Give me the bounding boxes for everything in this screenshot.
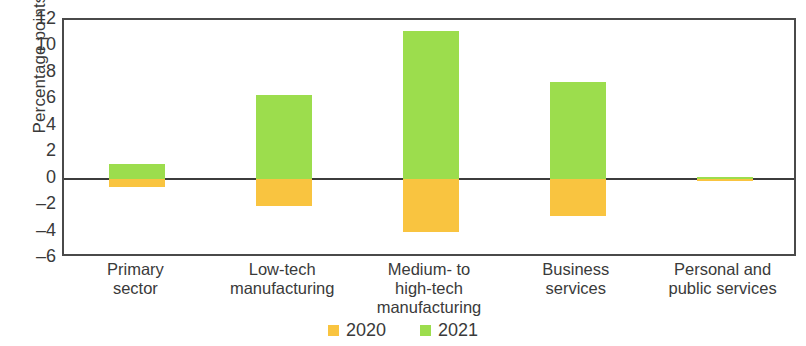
x-axis-label-line: public services xyxy=(649,279,796,298)
x-axis-category-label: Primarysector xyxy=(62,260,209,298)
y-axis-tick-label: 6 xyxy=(46,88,56,106)
x-axis-category-label: Personal andpublic services xyxy=(649,260,796,298)
y-axis-tick-label: 8 xyxy=(46,62,56,80)
y-axis-tick-labels: 121086420–2–4–6 xyxy=(8,0,56,346)
x-axis-label-line: Primary xyxy=(62,260,209,279)
bar-2021 xyxy=(550,82,606,179)
x-axis-label-line: Personal and xyxy=(649,260,796,279)
x-axis-label-line: Medium- to xyxy=(356,260,503,279)
y-axis-tick-label: 10 xyxy=(36,35,56,53)
y-axis-tick-label: –4 xyxy=(36,221,56,239)
y-axis-tick-label: 4 xyxy=(46,115,56,133)
bar-group xyxy=(651,20,798,254)
x-axis-label-line: Business xyxy=(502,260,649,279)
y-axis-tick-label: –2 xyxy=(36,194,56,212)
bar-group xyxy=(358,20,505,254)
x-axis-label-line: manufacturing xyxy=(356,298,503,317)
bar-2021 xyxy=(256,95,312,178)
y-axis-tick-label: 0 xyxy=(46,168,56,186)
legend-swatch-2021 xyxy=(420,325,431,336)
bar-2020 xyxy=(256,179,312,207)
legend-label: 2020 xyxy=(346,321,386,339)
y-axis-tick-label: 12 xyxy=(36,9,56,27)
x-axis-category-labels: PrimarysectorLow-techmanufacturingMedium… xyxy=(62,260,796,318)
bar-2021 xyxy=(403,31,459,179)
x-axis-label-line: Low-tech xyxy=(209,260,356,279)
bar-group xyxy=(504,20,651,254)
bar-2020 xyxy=(697,179,753,181)
x-axis-label-line: services xyxy=(502,279,649,298)
y-axis-tick-label: 2 xyxy=(46,141,56,159)
bar-2021 xyxy=(109,164,165,179)
bar-2020 xyxy=(109,179,165,187)
legend-item-2021[interactable]: 2021 xyxy=(420,321,478,339)
x-axis-category-label: Businessservices xyxy=(502,260,649,298)
x-axis-category-label: Low-techmanufacturing xyxy=(209,260,356,298)
bar-2020 xyxy=(550,179,606,216)
legend-item-2020[interactable]: 2020 xyxy=(328,321,386,339)
plot-area xyxy=(62,18,796,256)
y-axis-tick-label: –6 xyxy=(36,247,56,265)
bar-chart: Percentage points 121086420–2–4–6 Primar… xyxy=(0,0,806,346)
legend-swatch-2020 xyxy=(328,325,339,336)
bar-group xyxy=(64,20,211,254)
legend-label: 2021 xyxy=(438,321,478,339)
x-axis-category-label: Medium- tohigh-techmanufacturing xyxy=(356,260,503,317)
x-axis-label-line: sector xyxy=(62,279,209,298)
chart-legend: 20202021 xyxy=(0,321,806,339)
bar-2020 xyxy=(403,179,459,232)
bar-group xyxy=(211,20,358,254)
x-axis-label-line: high-tech xyxy=(356,279,503,298)
x-axis-label-line: manufacturing xyxy=(209,279,356,298)
